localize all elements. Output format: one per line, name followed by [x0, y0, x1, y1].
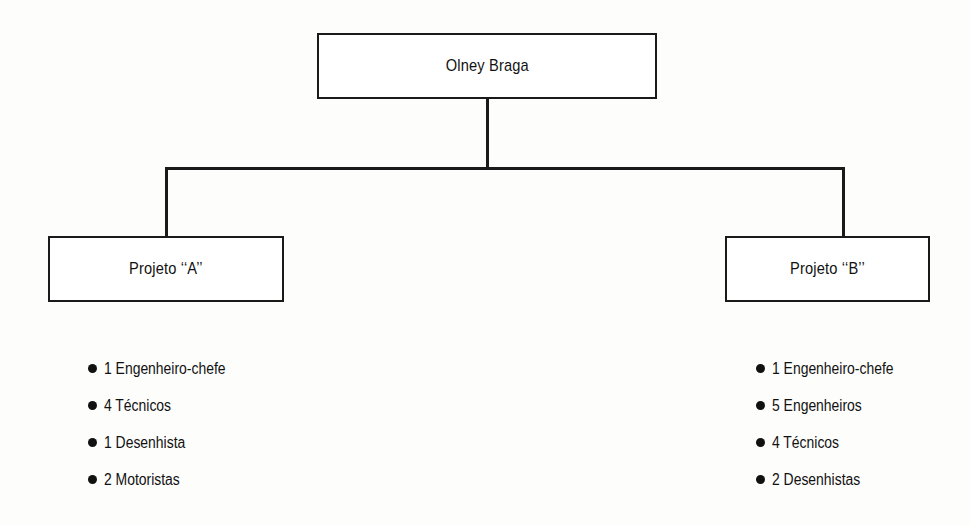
bullet-icon [756, 364, 765, 373]
bullet-icon [88, 438, 97, 447]
staff-item-label: 1 Engenheiro-chefe [104, 360, 226, 378]
staff-item-label: 2 Motoristas [104, 471, 180, 489]
bullet-icon [88, 401, 97, 410]
org-node-root: Olney Braga [317, 33, 657, 99]
connector-drop-projeto-b [842, 167, 845, 238]
bullet-icon [88, 475, 97, 484]
org-node-projeto-a: Projeto ‘‘A’’ [48, 236, 284, 302]
staff-item-label: 4 Técnicos [772, 434, 839, 452]
bullet-icon [88, 364, 97, 373]
staff-list-projeto-a: 1 Engenheiro-chefe 4 Técnicos 1 Desenhis… [88, 350, 244, 498]
staff-item-label: 1 Engenheiro-chefe [772, 360, 894, 378]
bullet-icon [756, 438, 765, 447]
bullet-icon [756, 475, 765, 484]
org-chart-canvas: Olney Braga Projeto ‘‘A’’ Projeto ‘‘B’’ … [0, 0, 970, 525]
staff-list-item: 1 Desenhista [88, 424, 244, 461]
org-node-root-label: Olney Braga [445, 56, 528, 76]
staff-list-item: 4 Técnicos [88, 387, 244, 424]
org-node-projeto-b-label: Projeto ‘‘B’’ [790, 259, 865, 279]
connector-drop-projeto-a [165, 167, 168, 238]
staff-list-item: 1 Engenheiro-chefe [88, 350, 244, 387]
staff-list-projeto-b: 1 Engenheiro-chefe 5 Engenheiros 4 Técni… [756, 350, 912, 498]
connector-horizontal-bus [165, 167, 845, 170]
staff-list-item: 2 Motoristas [88, 461, 244, 498]
org-node-projeto-a-label: Projeto ‘‘A’’ [129, 259, 203, 279]
connector-root-stem [486, 99, 489, 169]
staff-item-label: 1 Desenhista [104, 434, 185, 452]
staff-list-item: 4 Técnicos [756, 424, 912, 461]
org-node-projeto-b: Projeto ‘‘B’’ [725, 236, 930, 302]
staff-list-item: 1 Engenheiro-chefe [756, 350, 912, 387]
staff-item-label: 4 Técnicos [104, 397, 171, 415]
staff-list-item: 5 Engenheiros [756, 387, 912, 424]
staff-item-label: 2 Desenhistas [772, 471, 860, 489]
staff-list-item: 2 Desenhistas [756, 461, 912, 498]
staff-item-label: 5 Engenheiros [772, 397, 862, 415]
bullet-icon [756, 401, 765, 410]
